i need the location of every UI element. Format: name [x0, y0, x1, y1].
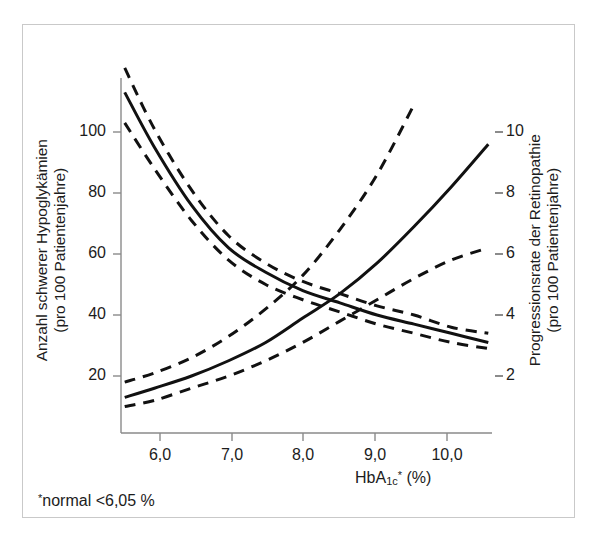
left-tick-label-20: 20 — [48, 366, 106, 384]
x-tick-label-7: 7,0 — [202, 446, 262, 464]
x-tick-label-6: 6,0 — [130, 446, 190, 464]
right-axis-title-line2: (pro 100 Patientenjahre) — [544, 95, 562, 405]
x-axis-title-sub: 1c — [386, 475, 398, 487]
x-tick-label-9: 9,0 — [345, 446, 405, 464]
series-line-0 — [125, 92, 489, 342]
right-tick-label-8: 8 — [506, 183, 546, 201]
left-tick-label-60: 60 — [48, 244, 106, 262]
x-axis-title-suffix: (%) — [402, 469, 431, 486]
right-tick-label-4: 4 — [506, 305, 546, 323]
x-tick-label-10: 10,0 — [417, 446, 477, 464]
series-layer — [125, 68, 489, 407]
footnote: *normal <6,05 % — [38, 492, 155, 510]
right-tick-label-10: 10 — [506, 122, 546, 140]
x-axis-title-base: HbA — [355, 469, 386, 486]
right-tick-label-6: 6 — [506, 244, 546, 262]
left-tick-label-40: 40 — [48, 305, 106, 323]
figure-container: Anzahl schwerer Hypoglykämien (pro 100 P… — [0, 0, 595, 549]
left-tick-label-80: 80 — [48, 183, 106, 201]
plot-canvas — [0, 0, 595, 549]
footnote-text: normal <6,05 % — [42, 492, 155, 509]
left-tick-label-100: 100 — [48, 122, 106, 140]
x-tick-label-8: 8,0 — [273, 446, 333, 464]
x-axis-title: HbA1c* (%) — [355, 469, 431, 487]
right-tick-label-2: 2 — [506, 366, 546, 384]
